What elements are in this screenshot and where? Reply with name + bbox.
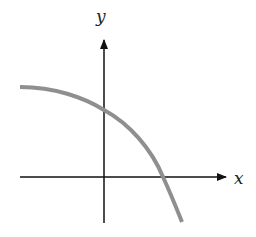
x-axis-label: x [234,168,244,188]
y-axis-label: y [95,6,106,26]
graph: y x [0,0,256,237]
curve [20,87,182,222]
